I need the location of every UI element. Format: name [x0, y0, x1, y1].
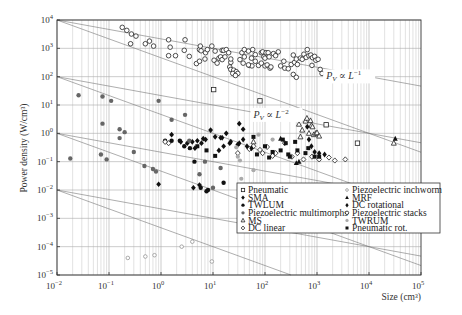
legend: PneumaticSMATWLUMPiezoelectric multimorp… [237, 183, 443, 233]
x-axis-label: Size (cm³) [381, 292, 421, 303]
svg-text:101: 101 [41, 98, 53, 110]
y-axis-label: Power density (W/cm³) [19, 104, 30, 193]
legend-label: Piezoelectric multimorphs [248, 208, 348, 218]
svg-text:10−1: 10−1 [37, 155, 53, 167]
svg-text:102: 102 [256, 279, 268, 291]
svg-text:103: 103 [308, 279, 320, 291]
annotations: PV ∝ L−1PV ∝ L−2 [250, 69, 375, 122]
svg-text:10−4: 10−4 [37, 240, 54, 252]
svg-text:10−2: 10−2 [37, 183, 53, 195]
svg-text:10−3: 10−3 [37, 211, 53, 223]
legend-item: DC linear [241, 223, 286, 233]
scatter-chart: 10−510−410−310−210−1100101102103104 10−2… [0, 0, 462, 315]
svg-text:10−5: 10−5 [37, 268, 53, 280]
svg-text:104: 104 [360, 279, 373, 291]
svg-text:10−2: 10−2 [46, 279, 62, 291]
legend-item: Pneumatic rot. [346, 223, 408, 233]
legend-label: Pneumatic rot. [352, 223, 407, 233]
svg-text:104: 104 [41, 13, 54, 25]
svg-text:102: 102 [41, 70, 53, 82]
series-piezoelectric-stacks [120, 25, 324, 80]
svg-text:100: 100 [152, 279, 164, 291]
series-piezoelectric-inchworm [126, 240, 214, 263]
svg-text:103: 103 [41, 41, 53, 53]
svg-text:100: 100 [41, 126, 53, 138]
legend-label: DC linear [248, 223, 286, 233]
svg-text:105: 105 [412, 279, 424, 291]
svg-text:10−1: 10−1 [98, 279, 114, 291]
series-sma [156, 121, 245, 191]
svg-text:101: 101 [204, 279, 216, 291]
